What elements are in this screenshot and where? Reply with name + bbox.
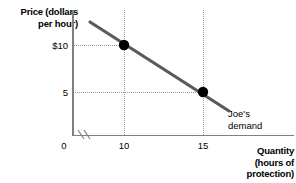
gridline-horizontal-5	[73, 92, 204, 93]
series-label-joes-demand: Joe's demand	[228, 108, 262, 131]
series-label-line-2: demand	[228, 120, 262, 132]
x-axis-title-line-2: (hours of	[214, 157, 294, 169]
x-tick-label-10: 10	[109, 140, 139, 151]
gridline-vertical-10	[124, 10, 125, 135]
joes-demand-line	[90, 22, 229, 111]
demand-curve-chart: Price (dollars per hour) $10 5 0 10 15 J…	[0, 0, 296, 183]
y-axis-title-line-2: per hour)	[2, 18, 78, 30]
y-tick-label-10: $10	[32, 40, 68, 51]
x-axis-line	[72, 135, 294, 137]
x-axis-title-line-1: Quantity	[214, 145, 294, 157]
x-tick-label-0: 0	[56, 140, 72, 151]
y-tick-label-5: 5	[32, 87, 68, 98]
x-axis-title-line-3: protection)	[214, 168, 294, 180]
y-axis-title: Price (dollars per hour)	[2, 6, 78, 29]
y-axis-title-line-1: Price (dollars	[2, 6, 78, 18]
series-label-line-1: Joe's	[228, 108, 262, 120]
gridline-vertical-15	[203, 10, 204, 135]
gridline-horizontal-10	[73, 45, 125, 46]
x-axis-title: Quantity (hours of protection)	[214, 145, 294, 180]
y-axis-line	[72, 10, 74, 136]
